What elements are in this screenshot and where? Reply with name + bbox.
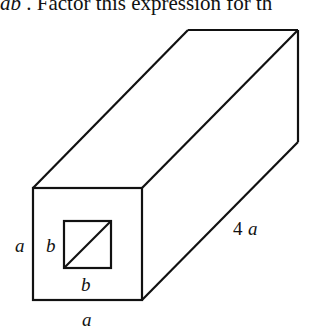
label-outer-side: a [15, 235, 25, 256]
prism-diagram: a b b a 4 a [0, 0, 318, 333]
label-length-variable: a [248, 218, 258, 239]
label-inner-side: b [46, 235, 56, 256]
label-outer-bottom: a [82, 309, 92, 330]
hole-depth-line [64, 221, 111, 268]
label-length-number: 4 [233, 218, 243, 239]
label-inner-bottom: b [81, 274, 91, 295]
